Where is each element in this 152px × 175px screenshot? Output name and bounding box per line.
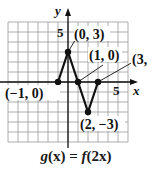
caption-x: (x)	[48, 148, 66, 164]
point-0-3	[65, 49, 71, 55]
label-point-3-0: (3,	[132, 52, 147, 68]
point-neg1-0	[55, 79, 61, 85]
point-3-0	[95, 79, 101, 85]
label-point-2-neg3: (2, −3)	[80, 117, 119, 133]
x-axis-label: x	[132, 83, 140, 98]
caption-g: g	[40, 148, 48, 164]
y-axis-arrow-icon	[65, 8, 71, 16]
y-tick-label: 5	[57, 25, 64, 40]
function-caption: g(x) = f(2x)	[0, 148, 152, 165]
x-tick-label: 5	[113, 83, 120, 98]
label-point-1-0: (1, 0)	[89, 48, 120, 64]
point-2-neg3	[85, 109, 91, 115]
caption-arg: (2x)	[87, 148, 112, 164]
y-axis-label: y	[53, 3, 61, 18]
coordinate-graph: x y 5 5 (−1, 0) (0, 3) (1, 0) (2, −3) (3…	[0, 0, 152, 150]
point-1-0	[75, 79, 81, 85]
label-point-0-3: (0, 3)	[74, 27, 105, 43]
caption-eq: =	[65, 148, 81, 164]
label-point-neg1-0: (−1, 0)	[5, 86, 44, 102]
